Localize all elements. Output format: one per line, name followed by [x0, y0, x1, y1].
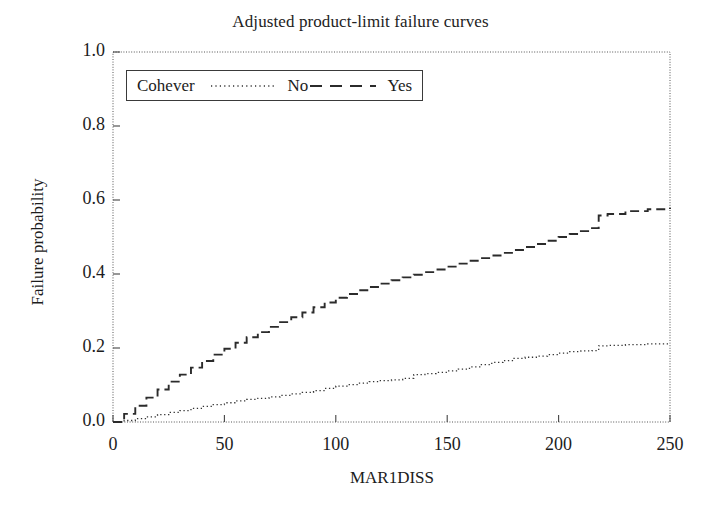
x-tick-label: 100 — [306, 434, 366, 455]
legend: Cohever No Yes — [126, 70, 423, 101]
legend-entry-no: No — [209, 76, 309, 96]
y-tick-label: 0.2 — [49, 336, 105, 357]
y-tick-label: 0.6 — [49, 188, 105, 209]
legend-label-no: No — [288, 76, 309, 96]
curve-yes — [113, 208, 670, 422]
plot-frame — [113, 52, 670, 422]
x-tick-label: 200 — [529, 434, 589, 455]
x-tick-label: 0 — [83, 434, 143, 455]
x-tick-label: 250 — [640, 434, 700, 455]
x-tick-label: 150 — [417, 434, 477, 455]
y-tick-label: 1.0 — [49, 40, 105, 61]
legend-line-dotted-icon — [209, 81, 279, 91]
y-axis-title: Failure probability — [28, 142, 48, 342]
curve-no — [113, 343, 670, 422]
legend-line-dashed-icon — [308, 81, 378, 91]
y-tick-label: 0.0 — [49, 410, 105, 431]
x-axis-title: MAR1DISS — [113, 468, 671, 488]
y-tick-label: 0.8 — [49, 114, 105, 135]
legend-label-yes: Yes — [387, 76, 412, 96]
y-tick-label: 0.4 — [49, 262, 105, 283]
legend-title: Cohever — [137, 76, 195, 96]
x-tick-label: 50 — [194, 434, 254, 455]
chart-page: Adjusted product-limit failure curves Fa… — [0, 0, 721, 508]
legend-entry-yes: Yes — [308, 76, 412, 96]
